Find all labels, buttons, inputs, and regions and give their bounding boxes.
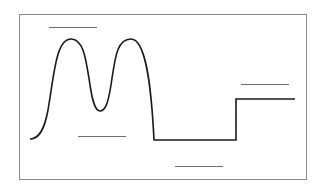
diagram-canvas [0,0,323,188]
waveform-curve [30,39,295,140]
diagram-frame [20,15,307,180]
blank-label-lines [49,28,289,167]
